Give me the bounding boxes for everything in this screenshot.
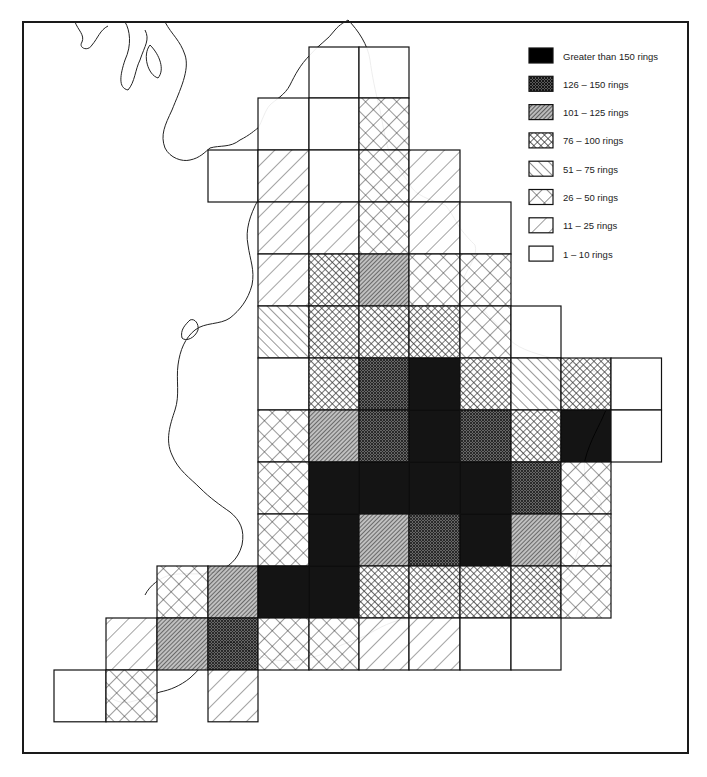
grid-cell-11-25 (409, 150, 460, 202)
legend-label-1-10: 1 – 10 rings (563, 249, 613, 260)
legend-swatch-gt150 (529, 48, 553, 63)
grid-cell-26-50 (258, 618, 309, 670)
grid-cell-26-50 (258, 514, 309, 566)
grid-cell-11-25 (359, 618, 409, 670)
grid-cell-101-125 (309, 410, 359, 462)
grid-cell-11-25 (258, 150, 309, 202)
grid-cells (54, 47, 662, 722)
legend-swatch-126-150 (529, 76, 553, 91)
grid-cell-101-125 (208, 566, 258, 618)
grid-cell-26-50 (359, 98, 409, 150)
grid-cell-1-10 (208, 150, 258, 202)
grid-cell-51-75 (511, 358, 561, 410)
grid-cell-101-125 (511, 514, 561, 566)
legend-label-gt150: Greater than 150 rings (563, 51, 658, 62)
grid-cell-1-10 (309, 47, 359, 98)
grid-cell-76-100 (309, 306, 359, 358)
grid-cell-11-25 (258, 202, 309, 254)
grid-cell-76-100 (359, 306, 409, 358)
grid-cell-76-100 (460, 358, 511, 410)
grid-cell-gt150 (309, 514, 359, 566)
grid-cell-26-50 (258, 410, 309, 462)
grid-cell-1-10 (309, 98, 359, 150)
grid-cell-126-150 (511, 462, 561, 514)
grid-cell-26-50 (359, 150, 409, 202)
legend-label-11-25: 11 – 25 rings (563, 220, 617, 231)
grid-cell-76-100 (460, 566, 511, 618)
grid-cell-26-50 (409, 254, 460, 306)
grid-cell-126-150 (409, 514, 460, 566)
grid-cell-26-50 (359, 202, 409, 254)
grid-cell-76-100 (409, 566, 460, 618)
legend-label-26-50: 26 – 50 rings (563, 192, 618, 203)
grid-cell-26-50 (106, 670, 157, 722)
grid-cell-126-150 (208, 618, 258, 670)
grid-cell-126-150 (460, 410, 511, 462)
grid-cell-76-100 (561, 358, 611, 410)
legend-label-126-150: 126 – 150 rings (563, 79, 629, 90)
grid-cell-11-25 (409, 618, 460, 670)
grid-cell-1-10 (511, 306, 561, 358)
grid-cell-gt150 (359, 462, 409, 514)
legend-swatch-11-25 (529, 218, 553, 233)
grid-cell-gt150 (409, 462, 460, 514)
grid-cell-26-50 (258, 462, 309, 514)
grid-cell-gt150 (309, 462, 359, 514)
grid-cell-26-50 (561, 514, 611, 566)
grid-cell-76-100 (359, 566, 409, 618)
grid-cell-76-100 (511, 566, 561, 618)
grid-cell-76-100 (309, 358, 359, 410)
grid-cell-76-100 (309, 254, 359, 306)
grid-cell-26-50 (309, 618, 359, 670)
grid-cell-gt150 (309, 566, 359, 618)
grid-cell-gt150 (409, 410, 460, 462)
grid-cell-gt150 (561, 410, 611, 462)
grid-cell-101-125 (359, 514, 409, 566)
grid-cell-1-10 (460, 202, 511, 254)
grid-cell-gt150 (409, 358, 460, 410)
legend-swatch-51-75 (529, 161, 553, 176)
grid-cell-1-10 (511, 618, 561, 670)
grid-cell-26-50 (561, 566, 611, 618)
grid-cell-1-10 (611, 410, 662, 462)
grid-cell-76-100 (511, 410, 561, 462)
grid-cell-11-25 (208, 670, 258, 722)
legend-swatch-26-50 (529, 190, 553, 205)
grid-cell-26-50 (561, 462, 611, 514)
grid-cell-126-150 (359, 410, 409, 462)
grid-cell-26-50 (157, 566, 208, 618)
grid-cell-11-25 (258, 254, 309, 306)
grid-cell-1-10 (54, 670, 106, 722)
grid-cell-1-10 (309, 150, 359, 202)
legend-label-51-75: 51 – 75 rings (563, 164, 618, 175)
grid-cell-126-150 (359, 358, 409, 410)
grid-cell-gt150 (258, 566, 309, 618)
legend-label-101-125: 101 – 125 rings (563, 107, 629, 118)
legend-swatch-1-10 (529, 246, 553, 261)
grid-cell-1-10 (258, 358, 309, 410)
ringing-density-map: Greater than 150 rings126 – 150 rings101… (0, 0, 707, 777)
legend-swatch-101-125 (529, 105, 553, 120)
grid-cell-1-10 (258, 98, 309, 150)
legend-swatch-76-100 (529, 133, 553, 148)
grid-cell-101-125 (157, 618, 208, 670)
grid-cell-1-10 (611, 358, 662, 410)
grid-cell-11-25 (106, 618, 157, 670)
grid-cell-26-50 (460, 254, 511, 306)
legend: Greater than 150 rings126 – 150 rings101… (529, 48, 658, 261)
legend-label-76-100: 76 – 100 rings (563, 135, 623, 146)
grid-cell-gt150 (460, 462, 511, 514)
grid-cell-11-25 (309, 202, 359, 254)
grid-cell-1-10 (460, 618, 511, 670)
grid-cell-101-125 (359, 254, 409, 306)
grid-cell-51-75 (258, 306, 309, 358)
grid-cell-11-25 (409, 202, 460, 254)
grid-cell-26-50 (460, 306, 511, 358)
grid-cell-76-100 (409, 306, 460, 358)
grid-cell-gt150 (460, 514, 511, 566)
grid-cell-1-10 (359, 47, 409, 98)
